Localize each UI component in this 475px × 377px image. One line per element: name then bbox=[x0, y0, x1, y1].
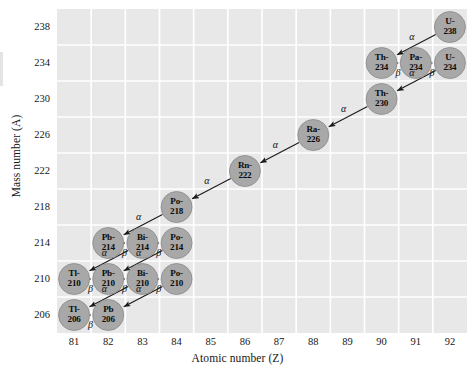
x-tick-81: 81 bbox=[59, 336, 89, 347]
x-tick-92: 92 bbox=[435, 336, 465, 347]
x-tick-91: 91 bbox=[401, 336, 431, 347]
decay-label-beta-bi-210-to-po-210: β bbox=[156, 282, 161, 293]
decay-label-alpha-bi-210-to-tl-206: α bbox=[102, 283, 107, 294]
x-tick-89: 89 bbox=[332, 336, 362, 347]
x-tick-87: 87 bbox=[264, 336, 294, 347]
y-tick-218: 218 bbox=[20, 201, 50, 212]
decay-label-alpha-po-214-to-pb-210: α bbox=[136, 247, 141, 258]
y-tick-234: 234 bbox=[20, 57, 50, 68]
decay-label-alpha-u-238-to-th-234: α bbox=[409, 31, 414, 42]
plot-canvas bbox=[0, 0, 475, 377]
y-tick-214: 214 bbox=[20, 237, 50, 248]
y-tick-210: 210 bbox=[20, 273, 50, 284]
decay-label-beta-pa-234-to-u-234: β bbox=[430, 66, 435, 77]
decay-label-alpha-rn-222-to-po-218: α bbox=[204, 175, 209, 186]
x-tick-86: 86 bbox=[230, 336, 260, 347]
x-tick-90: 90 bbox=[367, 336, 397, 347]
y-tick-230: 230 bbox=[20, 93, 50, 104]
decay-label-beta-th-234-to-pa-234: β bbox=[395, 66, 400, 77]
y-tick-222: 222 bbox=[20, 165, 50, 176]
x-tick-88: 88 bbox=[298, 336, 328, 347]
decay-label-alpha-ra-226-to-rn-222: α bbox=[273, 139, 278, 150]
decay-label-alpha-u-234-to-th-230: α bbox=[409, 67, 414, 78]
y-tick-206: 206 bbox=[20, 309, 50, 320]
y-tick-238: 238 bbox=[20, 21, 50, 32]
x-tick-84: 84 bbox=[162, 336, 192, 347]
decay-label-beta-pb-214-to-bi-214: β bbox=[122, 246, 127, 257]
y-axis-label: Mass number (A) bbox=[10, 96, 22, 216]
x-tick-85: 85 bbox=[196, 336, 226, 347]
x-tick-82: 82 bbox=[93, 336, 123, 347]
decay-label-alpha-bi-214-to-tl-210: α bbox=[102, 247, 107, 258]
decay-label-beta-tl-210-to-pb-210: β bbox=[88, 282, 93, 293]
decay-label-alpha-po-210-to-pb-206: α bbox=[136, 283, 141, 294]
y-tick-226: 226 bbox=[20, 129, 50, 140]
decay-label-beta-bi-214-to-po-214: β bbox=[156, 246, 161, 257]
decay-chain-figure: 8182838485868788899091922062102142182222… bbox=[0, 0, 475, 377]
decay-label-beta-tl-206-to-pb-206: β bbox=[88, 318, 93, 329]
x-axis-label: Atomic number (Z) bbox=[0, 352, 475, 364]
decay-label-alpha-po-218-to-pb-214: α bbox=[136, 211, 141, 222]
decay-label-alpha-th-230-to-ra-226: α bbox=[341, 103, 346, 114]
x-tick-83: 83 bbox=[127, 336, 157, 347]
decay-label-beta-pb-210-to-bi-210: β bbox=[122, 282, 127, 293]
